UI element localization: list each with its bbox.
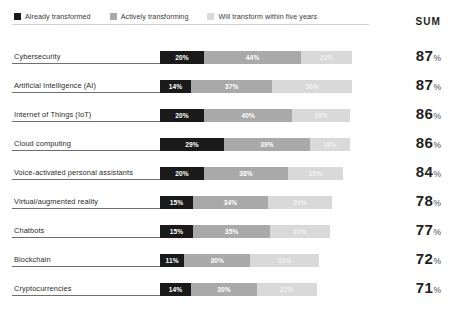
row-category-label: Voice-activated personal assistants <box>14 168 133 177</box>
sum-percent-sign: % <box>433 53 441 63</box>
bar-segment-value: 14% <box>169 80 183 93</box>
legend-item-already-transformed: Already transformed <box>14 12 91 21</box>
bar-segment-value: 30% <box>217 283 231 296</box>
row-category-label: Cloud computing <box>14 139 71 148</box>
bar-segment-already-transformed: 14% <box>160 80 191 93</box>
row-sum-value: 78% <box>416 192 441 210</box>
chart-row: Internet of Things (IoT)20%40%26%86% <box>0 96 455 125</box>
bar-segment-value: 15% <box>170 225 184 238</box>
sum-number: 71 <box>416 279 433 296</box>
row-baseline <box>12 179 160 180</box>
bar-segment-actively-transforming: 44% <box>204 51 301 64</box>
stacked-bar: 15%35%27% <box>160 225 330 238</box>
sum-percent-sign: % <box>433 169 441 179</box>
bar-segment-value: 20% <box>175 109 189 122</box>
bar-segment-already-transformed: 20% <box>160 167 204 180</box>
row-baseline <box>12 295 160 296</box>
bar-segment-value: 38% <box>239 167 253 180</box>
row-category-label: Virtual/augmented reality <box>14 197 98 206</box>
bar-segment-value: 30% <box>211 254 225 267</box>
bar-segment-already-transformed: 29% <box>160 138 224 151</box>
row-category-label: Artificial Intelligence (AI) <box>14 81 96 90</box>
row-baseline <box>12 121 160 122</box>
row-sum-value: 72% <box>416 250 441 268</box>
bar-segment-value: 34% <box>224 196 238 209</box>
sum-percent-sign: % <box>433 285 441 295</box>
bar-segment-value: 18% <box>323 138 337 151</box>
bar-segment-value: 27% <box>293 225 307 238</box>
bar-segment-actively-transforming: 30% <box>191 283 257 296</box>
chart-legend: Already transformed Actively transformin… <box>14 9 317 23</box>
row-baseline <box>12 150 160 151</box>
bar-segment-value: 20% <box>175 51 189 64</box>
bar-segment-will-transform: 25% <box>288 167 343 180</box>
legend-divider <box>12 24 369 25</box>
row-sum-value: 71% <box>416 279 441 297</box>
bar-segment-value: 25% <box>309 167 323 180</box>
row-category-label: Cryptocurrencies <box>14 284 71 293</box>
bar-segment-value: 39% <box>260 138 274 151</box>
sum-percent-sign: % <box>433 227 441 237</box>
bar-segment-will-transform: 36% <box>272 80 351 93</box>
sum-number: 86 <box>416 105 433 122</box>
bar-segment-will-transform: 26% <box>292 109 349 122</box>
stacked-bar: 20%38%25% <box>160 167 343 180</box>
legend-item-will-transform-within-five-years: Will transform within five years <box>207 12 317 21</box>
row-category-label: Internet of Things (IoT) <box>14 110 91 119</box>
sum-percent-sign: % <box>433 140 441 150</box>
row-sum-value: 77% <box>416 221 441 239</box>
row-sum-value: 87% <box>416 47 441 65</box>
bar-segment-already-transformed: 15% <box>160 196 193 209</box>
bar-segment-value: 31% <box>278 254 292 267</box>
square-swatch-icon <box>14 13 21 20</box>
stacked-bar: 11%30%31% <box>160 254 319 267</box>
chart-row: Virtual/augmented reality15%34%29%78% <box>0 183 455 212</box>
bar-segment-value: 15% <box>170 196 184 209</box>
bar-segment-value: 44% <box>246 51 260 64</box>
bar-segment-value: 36% <box>305 80 319 93</box>
bar-segment-already-transformed: 20% <box>160 51 204 64</box>
bar-segment-will-transform: 23% <box>301 51 352 64</box>
bar-segment-value: 14% <box>169 283 183 296</box>
square-swatch-icon <box>207 13 214 20</box>
row-sum-value: 84% <box>416 163 441 181</box>
sum-percent-sign: % <box>433 198 441 208</box>
stacked-bar: 15%34%29% <box>160 196 332 209</box>
sum-number: 77 <box>416 221 433 238</box>
stacked-bar: 29%39%18% <box>160 138 350 151</box>
bar-segment-already-transformed: 20% <box>160 109 204 122</box>
bar-segment-actively-transforming: 34% <box>193 196 268 209</box>
sum-percent-sign: % <box>433 111 441 121</box>
bar-segment-actively-transforming: 40% <box>204 109 292 122</box>
row-baseline <box>12 266 160 267</box>
stacked-bar: 20%40%26% <box>160 109 350 122</box>
row-sum-value: 87% <box>416 76 441 94</box>
chart-rows: Cybersecurity20%44%23%87%Artificial Inte… <box>0 38 455 299</box>
row-baseline <box>12 92 160 93</box>
stacked-bar: 14%30%27% <box>160 283 317 296</box>
row-baseline <box>12 208 160 209</box>
bar-segment-actively-transforming: 38% <box>204 167 288 180</box>
square-swatch-icon <box>110 13 117 20</box>
sum-number: 86 <box>416 134 433 151</box>
sum-number: 72 <box>416 250 433 267</box>
bar-segment-value: 40% <box>241 109 255 122</box>
row-category-label: Blockchain <box>14 255 51 264</box>
bar-segment-actively-transforming: 39% <box>224 138 310 151</box>
bar-segment-will-transform: 18% <box>310 138 350 151</box>
bar-segment-value: 27% <box>280 283 294 296</box>
row-sum-value: 86% <box>416 134 441 152</box>
row-baseline <box>12 237 160 238</box>
bar-segment-will-transform: 27% <box>270 225 330 238</box>
legend-item-actively-transforming: Actively transforming <box>110 12 189 21</box>
bar-segment-value: 29% <box>293 196 307 209</box>
sum-number: 87 <box>416 47 433 64</box>
row-category-label: Cybersecurity <box>14 52 60 61</box>
sum-number: 78 <box>416 192 433 209</box>
row-sum-value: 86% <box>416 105 441 123</box>
bar-segment-already-transformed: 14% <box>160 283 191 296</box>
chart-row: Voice-activated personal assistants20%38… <box>0 154 455 183</box>
bar-segment-will-transform: 31% <box>250 254 318 267</box>
bar-segment-already-transformed: 15% <box>160 225 193 238</box>
bar-segment-actively-transforming: 30% <box>184 254 250 267</box>
